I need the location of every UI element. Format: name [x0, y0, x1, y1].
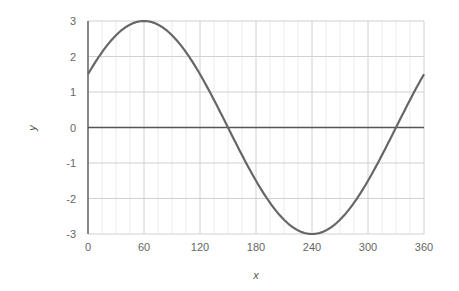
y-axis-label: y: [26, 124, 38, 132]
x-axis-tick-labels: 060120180240300360: [85, 241, 433, 253]
x-tick-label: 300: [359, 241, 377, 253]
x-tick-label: 360: [415, 241, 433, 253]
y-tick-label: 3: [70, 15, 76, 27]
line-chart: 3210-1-2-3 060120180240300360 x y: [0, 0, 459, 291]
y-tick-label: 2: [70, 51, 76, 63]
x-tick-label: 240: [303, 241, 321, 253]
y-tick-label: -3: [66, 228, 76, 240]
x-axis-label: x: [252, 269, 259, 281]
x-tick-label: 120: [191, 241, 209, 253]
y-tick-label: 1: [70, 86, 76, 98]
x-tick-label: 0: [85, 241, 91, 253]
y-tick-label: -1: [66, 157, 76, 169]
x-tick-label: 180: [247, 241, 265, 253]
x-tick-label: 60: [138, 241, 150, 253]
y-tick-label: 0: [70, 122, 76, 134]
y-tick-label: -2: [66, 193, 76, 205]
y-axis-tick-labels: 3210-1-2-3: [66, 15, 76, 240]
